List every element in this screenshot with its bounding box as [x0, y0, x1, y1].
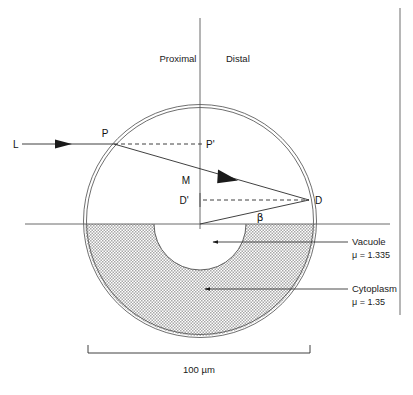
label-incident-ray-L: L [13, 139, 19, 150]
label-vacuole-index: μ = 1.335 [352, 250, 390, 260]
scale-bar [88, 345, 310, 353]
beta-angle-ray [200, 200, 309, 224]
label-point-P: P [102, 128, 109, 139]
label-angle-beta: β [257, 211, 264, 223]
label-scale-bar: 100 µm [183, 364, 215, 375]
label-cytoplasm-name: Cytoplasm [352, 283, 397, 294]
label-cytoplasm-index: μ = 1.35 [352, 297, 385, 307]
label-point-D: D [315, 195, 322, 206]
figure-container: Proximal Distal L P P' M D' D β Vacuole … [0, 0, 413, 395]
refracted-ray-arrowhead [217, 169, 238, 183]
label-point-D-prime: D' [179, 195, 188, 206]
label-point-M: M [182, 175, 190, 186]
refracted-ray [114, 144, 309, 200]
cell-optics-diagram: Proximal Distal L P P' M D' D β Vacuole … [0, 0, 413, 395]
label-vacuole-name: Vacuole [352, 236, 386, 247]
label-point-P-prime: P' [206, 139, 215, 150]
label-proximal: Proximal [160, 53, 197, 64]
label-distal: Distal [226, 53, 250, 64]
incident-ray-arrowhead [55, 140, 72, 149]
